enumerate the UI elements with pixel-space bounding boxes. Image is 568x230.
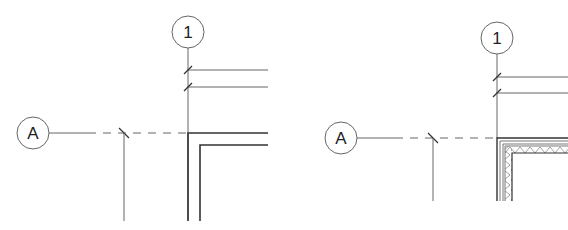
grid-label-a: A [335, 129, 347, 148]
grid-label-1: 1 [183, 23, 192, 42]
grid-label-a: A [27, 124, 39, 143]
diagram-canvas: 1 A 1 A [0, 0, 568, 230]
grid-bubble-a-left: A [17, 117, 49, 149]
wall-corner-plain [188, 133, 268, 221]
left-panel: 1 A [17, 16, 268, 221]
grid-bubble-1-left: 1 [172, 16, 204, 48]
wall-corner-hatched [497, 138, 568, 201]
grid-bubble-a-right: A [325, 122, 357, 154]
grid-bubble-1-right: 1 [481, 22, 513, 54]
right-panel: 1 A [325, 22, 568, 201]
grid-label-1: 1 [492, 29, 501, 48]
